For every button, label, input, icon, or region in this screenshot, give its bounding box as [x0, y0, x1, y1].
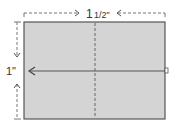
width-label-whole: 1 [86, 7, 93, 21]
width-label-fraction: 1/2" [94, 10, 110, 20]
folding-diagram: 1 1/2" 1" [0, 0, 176, 129]
height-label: 1" [6, 65, 16, 77]
tab-marker [165, 68, 168, 73]
